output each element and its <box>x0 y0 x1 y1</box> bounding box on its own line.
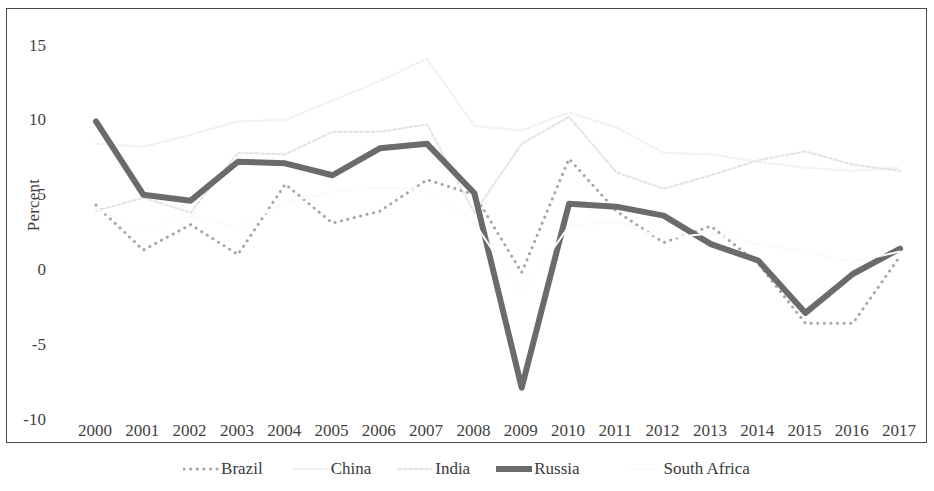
x-tick-label: 2013 <box>683 419 737 443</box>
x-tick-label: 2015 <box>778 419 832 443</box>
series-line-china <box>96 59 900 171</box>
legend-label: China <box>331 460 372 477</box>
x-tick-label: 2017 <box>872 419 926 443</box>
dashed-line-swatch <box>397 461 433 475</box>
legend-item-russia[interactable]: Russia <box>496 460 579 477</box>
x-tick-label: 2011 <box>588 419 642 443</box>
x-tick-label: 2012 <box>636 419 690 443</box>
x-tick-label: 2004 <box>257 419 311 443</box>
x-tick-label: 2002 <box>163 419 217 443</box>
solid-line-swatch <box>626 461 662 475</box>
y-tick-label: -5 <box>0 336 46 353</box>
legend-label: South Africa <box>664 460 750 477</box>
plot-area <box>6 8 927 443</box>
chart-figure: Percent 151050-5-10 20002001200220032004… <box>0 0 934 491</box>
dotted-line-swatch <box>183 461 219 475</box>
x-tick-label: 2001 <box>115 419 169 443</box>
series-line-south-africa <box>96 187 900 293</box>
x-axis-tick-labels: 2000200120022003200420052006200720082009… <box>6 419 927 447</box>
legend-item-china[interactable]: China <box>293 460 372 477</box>
y-tick-label: 5 <box>0 186 46 203</box>
x-tick-label: 2007 <box>399 419 453 443</box>
solid-line-swatch <box>496 461 532 475</box>
x-tick-label: 2003 <box>210 419 264 443</box>
y-tick-label: 0 <box>0 261 46 278</box>
x-tick-label: 2008 <box>446 419 500 443</box>
y-axis-label: Percent <box>24 145 44 265</box>
legend-item-south-africa[interactable]: South Africa <box>626 460 750 477</box>
y-tick-label: 10 <box>0 111 46 128</box>
plot-lines <box>7 9 928 444</box>
legend-item-brazil[interactable]: Brazil <box>183 460 263 477</box>
x-tick-label: 2006 <box>352 419 406 443</box>
x-tick-label: 2014 <box>730 419 784 443</box>
x-tick-label: 2016 <box>825 419 879 443</box>
x-tick-label: 2010 <box>541 419 595 443</box>
legend-item-india[interactable]: India <box>397 460 470 477</box>
chart-legend: BrazilChinaIndiaRussiaSouth Africa <box>6 452 927 484</box>
y-tick-label: 15 <box>0 37 46 54</box>
legend-label: Russia <box>534 460 579 477</box>
x-tick-label: 2000 <box>68 419 122 443</box>
series-line-russia <box>96 121 900 387</box>
x-tick-label: 2009 <box>494 419 548 443</box>
x-tick-label: 2005 <box>305 419 359 443</box>
legend-label: Brazil <box>221 460 263 477</box>
dashed-line-swatch <box>293 461 329 475</box>
legend-label: India <box>435 460 470 477</box>
